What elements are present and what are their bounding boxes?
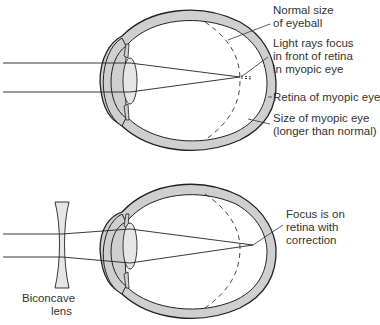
label-retina-myopic-eye: Retina of myopic eye [273,91,380,104]
top-crystalline-lens [123,58,137,104]
label-focus-on-retina: Focus is on retina with correction [286,208,345,247]
top-eyeball-cavity [125,21,267,141]
biconcave-lens [55,202,69,288]
bottom-eyeball-cavity [125,195,267,309]
label-normal-size: Normal size of eyeball [273,4,334,30]
top-eye [3,10,276,150]
label-biconcave-lens: Biconcave lens [22,292,72,318]
label-focus-front-of-retina: Light rays focus in front of retina in m… [273,37,354,76]
label-size-myopic-eye: Size of myopic eye (longer than normal) [273,112,377,138]
